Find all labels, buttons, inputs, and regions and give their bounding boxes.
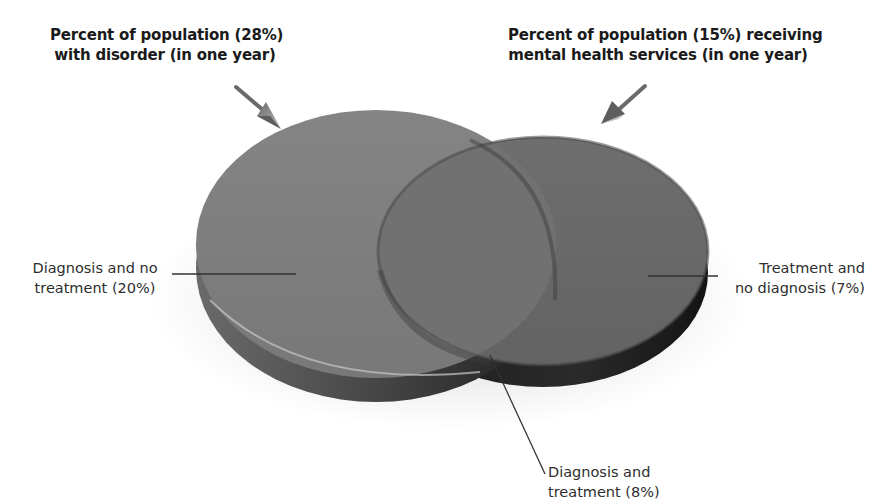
title-left-line2: with disorder (in one year) <box>50 45 280 65</box>
label-right-line1: Treatment and <box>715 258 865 278</box>
label-left-line1: Diagnosis and no <box>20 258 170 278</box>
title-services-population: Percent of population (15%) receiving me… <box>508 25 808 65</box>
title-right-line1: Percent of population (15%) receiving <box>508 25 808 45</box>
label-diagnosis-and-treatment: Diagnosis and treatment (8%) <box>548 462 668 500</box>
label-bottom-line2: treatment (8%) <box>548 482 668 500</box>
venn-disc-figure <box>0 0 877 500</box>
label-right-line2: no diagnosis (7%) <box>715 278 865 298</box>
title-right-line2: mental health services (in one year) <box>508 45 808 65</box>
small-disc-top-group <box>378 137 708 365</box>
label-bottom-line1: Diagnosis and <box>548 462 668 482</box>
arrow-right-icon <box>601 86 645 124</box>
title-left-line1: Percent of population (28%) <box>50 25 280 45</box>
label-treatment-no-diagnosis: Treatment and no diagnosis (7%) <box>715 258 865 298</box>
title-disorder-population: Percent of population (28%) with disorde… <box>50 25 280 65</box>
label-diagnosis-no-treatment: Diagnosis and no treatment (20%) <box>20 258 170 298</box>
arrow-left-icon <box>236 87 281 129</box>
label-left-line2: treatment (20%) <box>20 278 170 298</box>
